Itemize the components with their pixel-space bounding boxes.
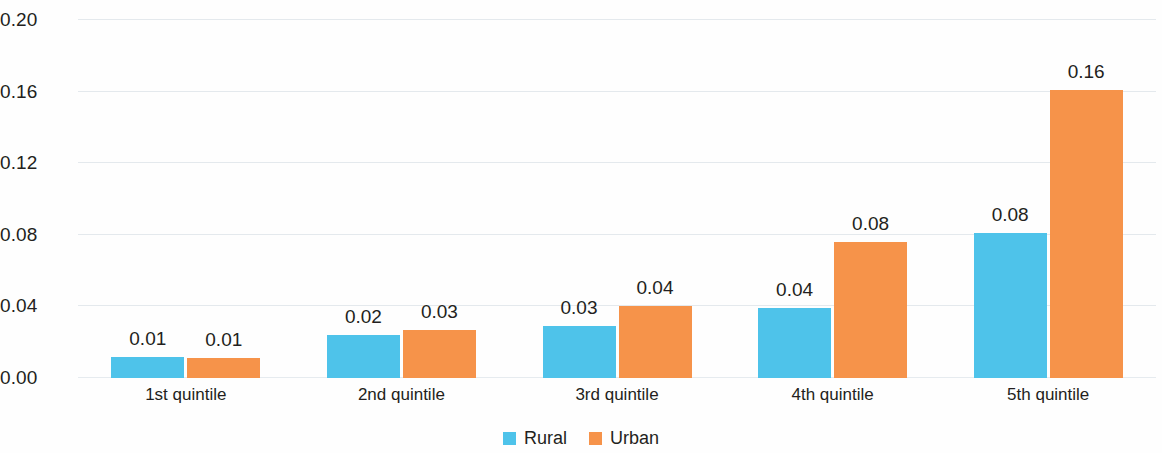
bar-rural-4 (758, 308, 831, 378)
bar-value-label: 0.02 (345, 306, 382, 328)
gridline (78, 162, 1156, 163)
x-axis-category-label: 3rd quintile (575, 385, 658, 405)
bar-value-label: 0.08 (992, 204, 1029, 226)
y-axis-tick-label: 0.12 (0, 152, 66, 174)
x-axis-category-label: 2nd quintile (358, 385, 445, 405)
bar-rural-1 (111, 357, 184, 378)
x-axis-category-label: 5th quintile (1007, 385, 1089, 405)
legend-label: Urban (610, 428, 659, 449)
y-axis-tick-label: 0.16 (0, 81, 66, 103)
y-axis-tick-label: 0.20 (0, 9, 66, 31)
legend-item-urban[interactable]: Urban (589, 428, 659, 449)
bar-value-label: 0.08 (852, 213, 889, 235)
y-axis-tick-label: 0.00 (0, 367, 66, 389)
legend-label: Rural (524, 428, 567, 449)
bar-value-label: 0.04 (776, 279, 813, 301)
bar-urban-5 (1050, 90, 1123, 378)
legend-swatch-icon (503, 432, 516, 445)
bar-value-label: 0.01 (129, 328, 166, 350)
bar-rural-5 (974, 233, 1047, 378)
bar-value-label: 0.04 (637, 277, 674, 299)
x-axis-category-label: 4th quintile (791, 385, 873, 405)
bar-urban-2 (403, 330, 476, 378)
bar-urban-1 (187, 358, 260, 378)
y-axis-tick-label: 0.08 (0, 224, 66, 246)
y-axis-tick-label: 0.04 (0, 295, 66, 317)
bar-rural-2 (327, 335, 400, 378)
legend-item-rural[interactable]: Rural (503, 428, 567, 449)
bar-value-label: 0.03 (561, 297, 598, 319)
x-axis-category-label: 1st quintile (145, 385, 226, 405)
gridline (78, 91, 1156, 92)
bar-urban-4 (834, 242, 907, 378)
bar-value-label: 0.01 (205, 329, 242, 351)
bar-urban-3 (619, 306, 692, 378)
plot-area: 0.010.010.020.030.030.040.040.080.080.16 (78, 20, 1156, 378)
bar-value-label: 0.03 (421, 301, 458, 323)
bar-value-label: 0.16 (1068, 61, 1105, 83)
bar-chart: 0.010.010.020.030.030.040.040.080.080.16… (0, 0, 1162, 453)
bar-rural-3 (543, 326, 616, 378)
legend-swatch-icon (589, 432, 602, 445)
gridline (78, 19, 1156, 20)
chart-legend: RuralUrban (0, 428, 1162, 449)
